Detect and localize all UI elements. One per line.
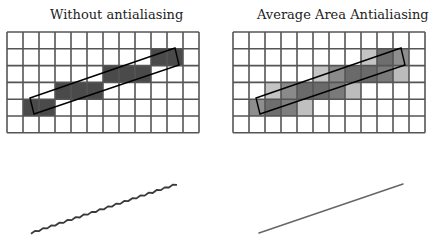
pixel-grid — [7, 32, 199, 133]
shaded-cell — [393, 49, 409, 66]
shaded-cell — [361, 66, 377, 83]
shaded-cell — [167, 49, 183, 66]
shaded-cell — [119, 66, 135, 83]
panel-average-area-antialiasing — [233, 32, 425, 233]
jagged-line — [31, 185, 177, 234]
diagram-canvas — [0, 0, 435, 241]
rendered-line-jagged — [31, 185, 177, 234]
shaded-cell — [297, 99, 313, 116]
shaded-cell — [329, 82, 345, 99]
shaded-cell — [135, 66, 151, 83]
pixel-grid — [233, 32, 425, 133]
panel-without-antialiasing — [7, 32, 199, 234]
rendered-line-smooth — [259, 184, 403, 233]
smooth-line — [259, 184, 403, 233]
shaded-cell — [345, 66, 361, 83]
